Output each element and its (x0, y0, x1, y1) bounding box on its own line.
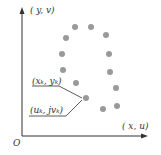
data-point (103, 32, 109, 38)
origin-label: O (13, 139, 20, 148)
data-point (72, 24, 78, 30)
data-point (114, 103, 120, 109)
data-point (88, 24, 94, 30)
y-axis-label: ( y, v) (30, 6, 55, 15)
data-point (59, 51, 65, 57)
y-axis-arrow-icon (20, 7, 25, 14)
diagram-canvas (0, 0, 161, 155)
leader-line-xy (32, 86, 82, 98)
data-point (73, 80, 79, 86)
data-point (100, 106, 106, 112)
x-axis-arrow-icon (141, 134, 148, 139)
point-cloud (59, 24, 120, 112)
data-point (60, 67, 66, 73)
data-point (83, 95, 89, 101)
data-point (107, 69, 113, 75)
point-label-uv: (uₖ, jvₖ) (30, 106, 63, 115)
x-axis-label: ( x, u) (122, 122, 148, 131)
data-point (63, 35, 69, 41)
data-point (106, 51, 112, 57)
data-point (113, 85, 119, 91)
point-label-xy: (xₖ, yₖ) (32, 77, 61, 86)
